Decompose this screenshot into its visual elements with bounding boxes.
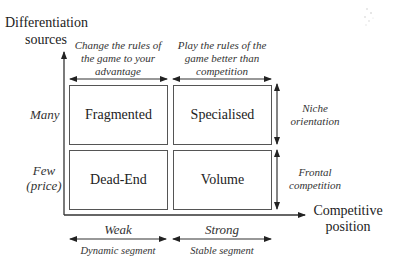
top-annotation-left-line2: the game to your (68, 52, 168, 65)
top-annotation-left-line1: Change the rules of (68, 39, 168, 52)
row-label-few: Few (price) (24, 163, 64, 193)
top-annotation-right-line1: Play the rules of the (170, 39, 274, 52)
col-label-weak: Weak (68, 223, 168, 236)
right-annotation-niche: Niche orientation (282, 102, 348, 128)
y-axis-title-line1: Differentiation (5, 14, 88, 31)
top-annotation-right-line3: competition (170, 65, 274, 78)
quadrant-fragmented: Fragmented (69, 85, 168, 145)
x-axis-title-line2: position (306, 219, 390, 235)
scan-artifact (355, 5, 385, 35)
right-annotation-niche-line2: orientation (282, 115, 348, 128)
col-sublabel-stable: Stable segment (172, 244, 272, 257)
col-sublabel-dynamic: Dynamic segment (68, 244, 168, 257)
top-annotation-left: Change the rules of the game to your adv… (68, 39, 168, 78)
quadrant-fragmented-label: Fragmented (85, 107, 152, 123)
quadrant-volume-label: Volume (201, 172, 244, 188)
quadrant-volume: Volume (173, 150, 272, 210)
right-annotation-frontal-line2: competition (282, 179, 348, 192)
right-annotation-frontal-line1: Frontal (282, 166, 348, 179)
top-annotation-right: Play the rules of the game better than c… (170, 39, 274, 78)
x-axis-title: Competitive position (306, 203, 390, 235)
quadrant-dead-end-label: Dead-End (90, 172, 147, 188)
right-annotation-niche-line1: Niche (282, 102, 348, 115)
col-label-strong: Strong (172, 223, 272, 236)
top-annotation-left-line3: advantage (68, 65, 168, 78)
row-label-few-line2: (price) (24, 178, 64, 193)
quadrant-specialised: Specialised (173, 85, 272, 145)
x-axis-title-line1: Competitive (306, 203, 390, 219)
quadrant-dead-end: Dead-End (69, 150, 168, 210)
right-annotation-frontal: Frontal competition (282, 166, 348, 192)
quadrant-specialised-label: Specialised (191, 107, 255, 123)
top-annotation-right-line2: game better than (170, 52, 274, 65)
row-label-few-line1: Few (24, 163, 64, 178)
row-label-many: Many (30, 107, 60, 123)
